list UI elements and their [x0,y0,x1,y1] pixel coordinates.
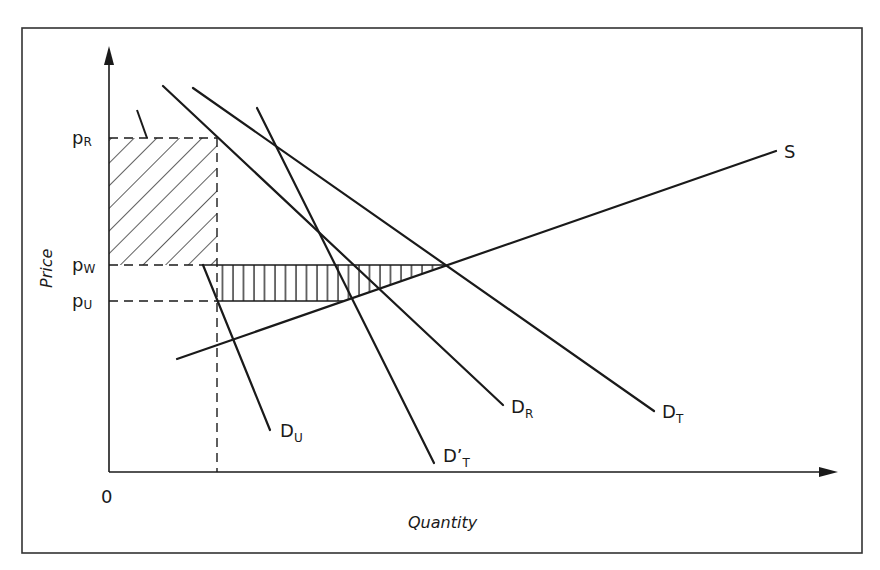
curve-label-S: S [784,141,795,162]
demand-curve-DT [193,88,654,411]
curve-label-DU: DU [280,420,303,445]
y-axis-title: Price [37,249,56,288]
vertical-hatched-area [203,265,447,301]
origin-label: 0 [101,486,112,507]
y-axis-arrow-icon [104,46,114,65]
price-label-pU: pU [72,290,92,312]
x-axis-arrow-icon [819,467,838,477]
price-label-pR: pR [72,127,92,149]
curve-label-DprimeT: D’T [443,445,471,470]
curve-label-DT: DT [662,401,684,426]
supply-demand-figure: pR pW pU S DR DT D’T DU 0 Quantity Price [0,0,880,570]
pointer-tick [137,110,147,138]
curve-label-DR: DR [511,396,533,421]
diagonal-hatched-area [109,138,217,265]
figure-frame [22,28,862,553]
price-label-pW: pW [72,254,95,276]
x-axis-title: Quantity [408,513,478,532]
